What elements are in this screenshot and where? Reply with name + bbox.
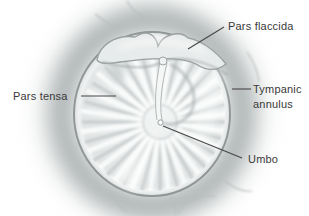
label-pars-flaccida: Pars flaccida bbox=[228, 19, 294, 34]
label-pars-tensa: Pars tensa bbox=[13, 89, 68, 104]
label-umbo: Umbo bbox=[248, 152, 278, 167]
lateral-process-knob bbox=[159, 57, 167, 65]
figure-canvas: Pars flaccida Pars tensa Tympanic annulu… bbox=[0, 0, 309, 216]
umbo-dot bbox=[158, 120, 163, 125]
label-tympanic-annulus: Tympanic annulus bbox=[253, 82, 307, 112]
